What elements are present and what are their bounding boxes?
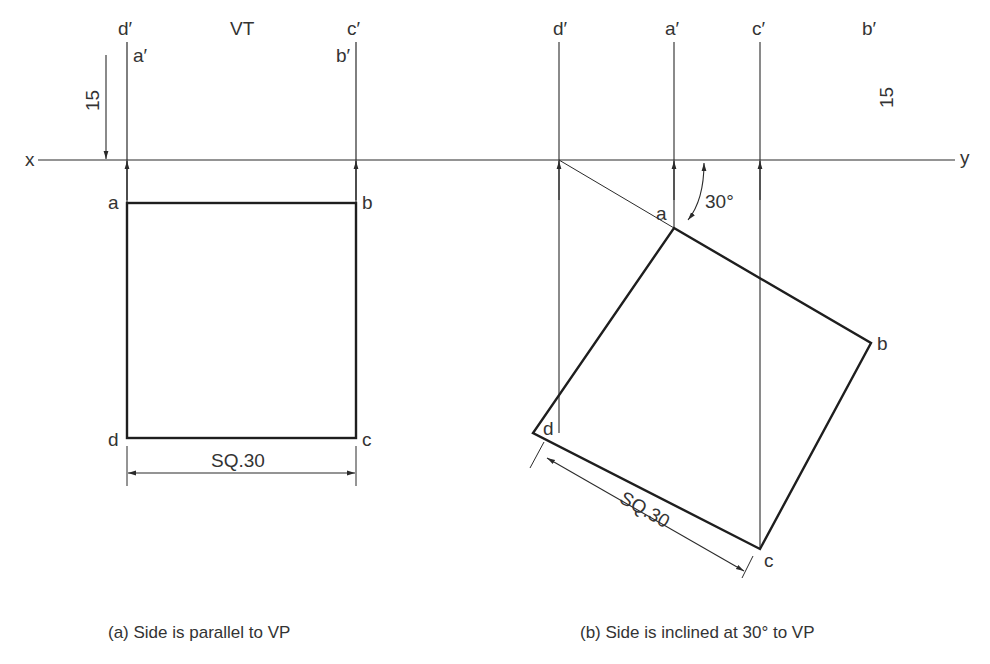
label-d-prime-b: d′ (553, 19, 567, 38)
square-top-view-b (533, 228, 871, 549)
figure-a-geometry (106, 42, 356, 486)
label-vt: VT (230, 19, 254, 38)
square-top-view-a (127, 203, 356, 438)
label-c-prime-b: c′ (752, 19, 765, 38)
dim-15-a: 15 (83, 90, 102, 111)
label-c-a: c (362, 430, 372, 449)
label-a-a: a (108, 193, 119, 212)
figure-b-geometry (530, 42, 871, 578)
label-a-prime-b: a′ (665, 19, 679, 38)
caption-a: (a) Side is parallel to VP (108, 624, 290, 641)
caption-b: (b) Side is inclined at 30° to VP (580, 624, 815, 641)
label-c-b: c (764, 551, 774, 570)
label-d-prime-a: d′ (118, 19, 132, 38)
label-b-b: b (877, 334, 888, 353)
label-a-b: a (656, 204, 667, 223)
label-d-b: d (543, 419, 554, 438)
dim-sq30-a: SQ.30 (211, 451, 265, 470)
label-b-a: b (362, 193, 373, 212)
label-c-prime-a: c′ (347, 19, 360, 38)
label-d-a: d (108, 430, 119, 449)
dim-15-b: 15 (877, 87, 896, 108)
label-x: x (25, 150, 35, 169)
label-b-prime-a: b′ (336, 46, 350, 65)
label-b-prime-b: b′ (862, 19, 876, 38)
angle-30: 30° (705, 192, 734, 211)
label-a-prime-a: a′ (133, 46, 147, 65)
label-y: y (960, 148, 970, 167)
projection-drawing (0, 0, 990, 664)
